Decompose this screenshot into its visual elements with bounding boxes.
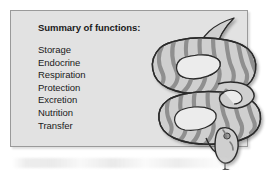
- list-item: Endocrine: [38, 57, 86, 70]
- page-title: Summary of functions:: [38, 22, 140, 33]
- figure-root: Summary of functions: Storage Endocrine …: [0, 0, 274, 170]
- list-item: Storage: [38, 44, 86, 57]
- summary-panel: Summary of functions: Storage Endocrine …: [10, 10, 248, 147]
- list-item: Transfer: [38, 120, 86, 133]
- snake-tongue-fork: [221, 169, 229, 170]
- page-bottom-artifact: [12, 158, 242, 168]
- list-item: Respiration: [38, 69, 86, 82]
- list-item: Protection: [38, 82, 86, 95]
- function-list: Storage Endocrine Respiration Protection…: [38, 44, 86, 132]
- list-item: Excretion: [38, 94, 86, 107]
- list-item: Nutrition: [38, 107, 86, 120]
